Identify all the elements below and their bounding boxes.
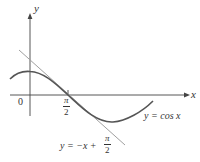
tick-denominator: 2 — [63, 107, 70, 117]
y-axis-arrow-icon — [28, 13, 33, 19]
x-axis-label: x — [191, 89, 196, 100]
tangent-line-label: y = −x + — [60, 141, 97, 151]
tangent-line-label-fraction: π 2 — [104, 134, 111, 155]
cosine-curve-label: y = cos x — [144, 111, 180, 121]
x-axis-arrow-icon — [184, 93, 190, 98]
cosine-curve — [10, 71, 153, 122]
pi-over-2-tick-label: π 2 — [63, 96, 70, 117]
tangent-numerator: π — [104, 134, 111, 145]
tick-numerator: π — [63, 96, 70, 107]
tangent-denominator: 2 — [104, 145, 111, 155]
tangent-line — [19, 50, 125, 145]
graph-canvas — [0, 0, 200, 162]
origin-label: 0 — [18, 97, 23, 107]
y-axis-label: y — [34, 3, 39, 14]
